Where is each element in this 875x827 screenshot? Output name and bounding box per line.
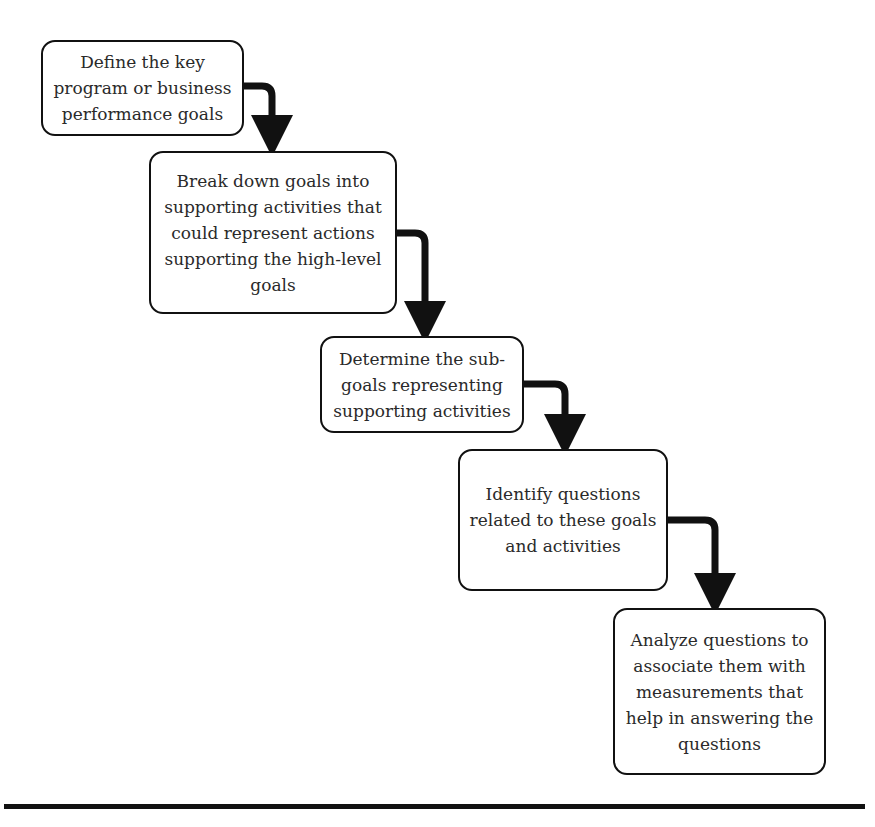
- step-1-line: Define the key: [53, 49, 231, 75]
- step-2-box: Break down goals into supporting activit…: [149, 151, 397, 314]
- step-2-line: Break down goals into: [164, 168, 381, 194]
- step-4-line: Identify questions: [470, 481, 657, 507]
- step-2-line: could represent actions: [164, 220, 381, 246]
- step-4-line: related to these goals: [470, 507, 657, 533]
- step-3-box: Determine the sub- goals representing su…: [320, 336, 524, 433]
- step-4-box: Identify questions related to these goal…: [458, 449, 668, 591]
- step-5-line: help in answering the: [626, 705, 814, 731]
- step-2-line: supporting the high-level: [164, 246, 381, 272]
- step-5-box: Analyze questions to associate them with…: [613, 608, 826, 775]
- step-5-line: measurements that: [626, 679, 814, 705]
- step-1-line: program or business: [53, 75, 231, 101]
- bottom-divider-rule: [4, 804, 865, 809]
- arrow-1-to-2: [243, 86, 272, 136]
- step-3-line: goals representing: [333, 372, 510, 398]
- arrow-4-to-5: [668, 520, 715, 594]
- step-4-line: and activities: [470, 533, 657, 559]
- arrow-2-to-3: [397, 233, 425, 322]
- step-1-line: performance goals: [53, 101, 231, 127]
- step-2-line: goals: [164, 272, 381, 298]
- step-3-line: Determine the sub-: [333, 346, 510, 372]
- step-2-line: supporting activities that: [164, 194, 381, 220]
- step-1-box: Define the key program or business perfo…: [41, 40, 244, 136]
- step-3-line: supporting activities: [333, 398, 510, 424]
- step-5-line: associate them with: [626, 653, 814, 679]
- arrow-3-to-4: [524, 384, 565, 435]
- step-5-line: Analyze questions to: [626, 627, 814, 653]
- step-5-line: questions: [626, 731, 814, 757]
